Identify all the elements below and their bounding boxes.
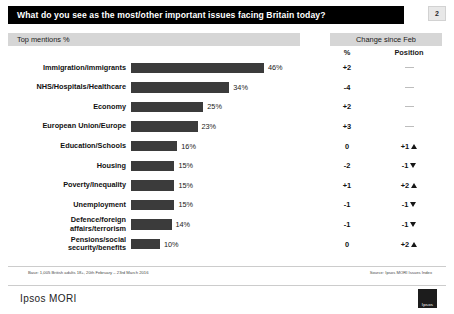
position-change-cell: -1 <box>376 200 442 209</box>
change-percent-value: +2 <box>330 102 364 111</box>
change-percent-value: 0 <box>330 240 364 249</box>
position-change-value: -1 <box>402 200 409 209</box>
position-change-value: +2 <box>401 240 409 249</box>
position-change-value: +1 <box>401 142 409 151</box>
row-label: NHS/Hospitals/Healthcare <box>0 83 131 91</box>
page-title: What do you see as the most/other import… <box>8 10 326 20</box>
change-percent-value: +3 <box>330 122 364 131</box>
change-percent-value: -1 <box>330 200 364 209</box>
change-since-feb-label: Change since Feb <box>356 35 416 44</box>
position-change-value: -1 <box>402 161 409 170</box>
column-header-percent: % <box>330 48 364 57</box>
bar-value-label: 46% <box>268 63 283 72</box>
arrow-down-icon <box>410 163 416 168</box>
slide: What do you see as the most/other import… <box>0 0 454 314</box>
position-change-cell <box>376 126 442 127</box>
bar-value-label: 14% <box>176 220 191 229</box>
position-change-cell <box>376 87 442 88</box>
row-label: Housing <box>0 162 131 170</box>
chart-row: Education/Schools16%0+1 <box>0 136 454 156</box>
footer-divider-bottom <box>8 285 446 286</box>
bar-zone: 25% <box>131 97 296 117</box>
row-label: Unemployment <box>0 201 131 209</box>
top-mentions-band: Top mentions % <box>8 33 300 46</box>
change-percent-value: -4 <box>330 83 364 92</box>
bar-value-label: 25% <box>207 102 222 111</box>
dash-icon <box>405 87 414 88</box>
change-percent-value: -2 <box>330 161 364 170</box>
bar <box>131 180 174 191</box>
chart-row: Defence/foreign affairs/terrorism14%-1-1 <box>0 215 454 235</box>
bar <box>131 200 174 211</box>
bar-value-label: 15% <box>178 181 193 190</box>
position-change-cell: +1 <box>376 142 442 151</box>
arrow-up-icon <box>411 144 417 149</box>
bar-zone: 15% <box>131 195 296 215</box>
position-change-cell <box>376 67 442 68</box>
bar-zone: 14% <box>131 215 296 235</box>
bar-value-label: 23% <box>202 122 217 131</box>
bar <box>131 63 264 74</box>
bar <box>131 102 203 113</box>
bar-zone: 15% <box>131 156 296 176</box>
bar-zone: 23% <box>131 117 296 137</box>
bar <box>131 82 229 93</box>
bar <box>131 219 172 230</box>
bar-value-label: 16% <box>181 142 196 151</box>
ipsos-logo-text: Ipsos <box>422 302 434 307</box>
chart-row: Economy25%+2 <box>0 97 454 117</box>
bar-zone: 34% <box>131 78 296 98</box>
ipsos-logo: Ipsos <box>418 289 437 308</box>
column-header-position: Position <box>376 48 442 57</box>
row-label: Economy <box>0 103 131 111</box>
change-percent-value: -1 <box>330 220 364 229</box>
dash-icon <box>405 126 414 127</box>
change-since-feb-band: Change since Feb <box>330 33 442 46</box>
bar-value-label: 34% <box>233 83 248 92</box>
arrow-down-icon <box>410 222 416 227</box>
bar-zone: 16% <box>131 136 296 156</box>
chart-row: Housing15%-2-1 <box>0 156 454 176</box>
change-percent-value: 0 <box>330 142 364 151</box>
brand-name: Ipsos MORI <box>20 293 77 304</box>
position-change-cell: -1 <box>376 220 442 229</box>
change-percent-value: +1 <box>330 181 364 190</box>
bar-zone: 46% <box>131 58 296 78</box>
slide-title-bar: What do you see as the most/other import… <box>8 6 404 24</box>
bar <box>131 121 198 132</box>
bar <box>131 239 160 250</box>
chart-rows: Immigration/immigrants46%+2NHS/Hospitals… <box>0 58 454 254</box>
chart-row: Unemployment15%-1-1 <box>0 195 454 215</box>
footnote-base: Base: 1,005 British adults 18+, 20th Feb… <box>28 270 148 275</box>
row-label: Pensions/social security/benefits <box>0 236 131 252</box>
position-change-cell <box>376 106 442 107</box>
dash-icon <box>405 67 414 68</box>
bar-value-label: 10% <box>164 240 179 249</box>
bar-value-label: 15% <box>178 200 193 209</box>
dash-icon <box>405 106 414 107</box>
bar-zone: 15% <box>131 176 296 196</box>
bar <box>131 161 174 172</box>
change-percent-value: +2 <box>330 63 364 72</box>
arrow-down-icon <box>410 202 416 207</box>
position-change-value: +2 <box>401 181 409 190</box>
page-number-badge: 2 <box>428 6 446 21</box>
footer-divider-top <box>8 266 446 267</box>
chart-row: Immigration/immigrants46%+2 <box>0 58 454 78</box>
bar <box>131 141 177 152</box>
footnote-source: Source: Ipsos MORI Issues Index <box>370 270 432 275</box>
row-label: Education/Schools <box>0 142 131 150</box>
row-label: European Union/Europe <box>0 122 131 130</box>
top-mentions-label: Top mentions % <box>17 35 70 44</box>
chart-row: NHS/Hospitals/Healthcare34%-4 <box>0 78 454 98</box>
position-change-cell: -1 <box>376 161 442 170</box>
position-change-cell: +2 <box>376 240 442 249</box>
chart-row: Pensions/social security/benefits10%0+2 <box>0 234 454 254</box>
row-label: Poverty/Inequality <box>0 181 131 189</box>
bar-value-label: 15% <box>178 161 193 170</box>
arrow-up-icon <box>411 242 417 247</box>
arrow-up-icon <box>411 183 417 188</box>
chart-row: Poverty/Inequality15%+1+2 <box>0 176 454 196</box>
row-label: Immigration/immigrants <box>0 64 131 72</box>
position-change-value: -1 <box>402 220 409 229</box>
